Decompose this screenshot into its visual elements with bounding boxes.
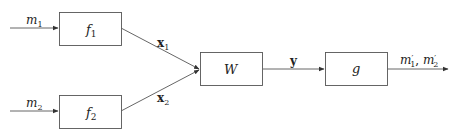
label-output: m′1, m′2 — [400, 53, 438, 69]
label-y: y — [289, 54, 298, 68]
label-m2: m2 — [26, 96, 42, 112]
label-g: g — [352, 61, 360, 76]
block-diagram: f1 f2 W g m1 m2 x1 x2 y m′1, m′2 — [0, 0, 474, 136]
label-x2: x2 — [157, 91, 169, 107]
label-x1: x1 — [157, 36, 169, 52]
label-m1: m1 — [26, 13, 42, 29]
label-w: W — [224, 62, 239, 77]
